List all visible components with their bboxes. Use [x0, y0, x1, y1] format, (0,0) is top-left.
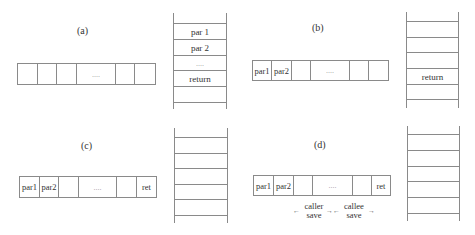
array-cell: [369, 61, 388, 80]
panel-c-register-array: par1 par2 .... ret: [19, 176, 157, 198]
stack-slot: [407, 22, 458, 37]
caller-save-left-arrow-icon: ←: [293, 207, 300, 215]
array-cell: par1: [20, 177, 40, 197]
stack-slot: [175, 185, 227, 199]
stack-slot: [407, 38, 458, 52]
stack-slot: [175, 200, 227, 215]
panel-a-stack: par 1 par 2 .... return: [173, 13, 227, 109]
array-cell: par1: [254, 176, 274, 195]
array-cell: [294, 176, 313, 195]
array-cell: [57, 64, 77, 84]
stack-slot: return: [174, 71, 226, 86]
array-cell: ret: [137, 177, 156, 197]
panel-d-label: (d): [314, 139, 326, 150]
array-cell: [38, 64, 57, 84]
array-cell: [353, 176, 372, 195]
callee-save-right-arrow-icon: →: [368, 207, 375, 215]
array-cell-ellipsis: ....: [79, 177, 117, 197]
array-cell-ellipsis: ....: [77, 64, 116, 84]
array-cell: [59, 177, 79, 197]
panel-d-stack: [407, 126, 460, 221]
panel-b-register-array: par1 par2 ....: [252, 60, 389, 81]
panel-b-stack: return: [406, 12, 459, 108]
array-cell-ellipsis: ....: [311, 61, 350, 80]
stack-slot: [408, 167, 459, 181]
array-cell: par1: [253, 61, 272, 80]
panel-c-label: (c): [81, 140, 92, 151]
stack-slot: [408, 151, 459, 166]
array-cell-ellipsis: ....: [313, 176, 353, 195]
stack-slot: [174, 87, 226, 102]
caller-save-label: caller save: [302, 202, 326, 220]
stack-slot: [407, 85, 458, 99]
stack-slot-ellipsis: ....: [174, 56, 226, 70]
panel-a-label: (a): [77, 25, 88, 36]
array-cell: [135, 64, 155, 84]
array-cell: ret: [372, 176, 390, 195]
stack-slot: [175, 169, 227, 184]
stack-slot: return: [407, 69, 458, 84]
stack-slot: [408, 135, 459, 150]
panel-c-stack: [174, 128, 228, 223]
stack-slot: [175, 154, 227, 168]
panel-a-register-array: ....: [17, 63, 156, 85]
stack-slot: [175, 138, 227, 153]
panel-d-register-array: par1 par2 .... ret: [253, 175, 391, 196]
callee-save-left-arrow-icon: ←: [333, 207, 340, 215]
stack-slot: [408, 198, 459, 213]
callee-save-label: callee save: [341, 202, 367, 220]
array-cell: par2: [272, 61, 292, 80]
panel-b-label: (b): [312, 22, 324, 33]
stack-slot: [407, 53, 458, 68]
array-cell: par2: [274, 176, 294, 195]
stack-slot: par 2: [174, 40, 226, 55]
stack-slot: [408, 182, 459, 197]
stack-slot: par 1: [174, 24, 226, 39]
array-cell: [18, 64, 38, 84]
caller-save-right-arrow-icon: →: [326, 207, 333, 215]
array-cell: par2: [40, 177, 59, 197]
array-cell: [350, 61, 369, 80]
array-cell: [117, 177, 137, 197]
array-cell: [292, 61, 311, 80]
array-cell: [116, 64, 135, 84]
